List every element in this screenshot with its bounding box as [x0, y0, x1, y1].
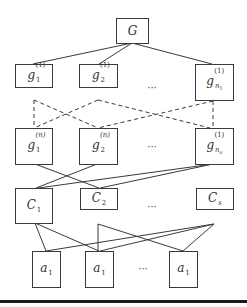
node-g1-n: g1(n) [15, 128, 53, 165]
ellipsis-level3: ··· [147, 201, 157, 212]
hierarchy-diagram: G g1(1) g2(1) ··· gn1(1) g1(n) g2(n) ···… [0, 0, 247, 307]
node-gna-1: gna(1) [195, 128, 234, 165]
node-root-G: G [116, 18, 149, 44]
node-a1-last: a1 [169, 251, 198, 288]
solid-edges [33, 43, 214, 251]
node-C1: C1 [15, 188, 53, 224]
ellipsis-level2: ··· [147, 141, 157, 152]
edge-level2-level3 [38, 164, 213, 188]
dashed-edges [34, 100, 213, 128]
node-label: G [128, 25, 138, 37]
edge-level3-level4 [100, 224, 214, 251]
node-gn1-1: gn1(1) [195, 64, 234, 101]
edge-level3-level4 [46, 224, 214, 251]
ellipsis-level1: ··· [147, 82, 157, 93]
node-Cs: Cs [196, 188, 234, 210]
edge-level3-level4 [98, 224, 183, 251]
ellipsis-level4: ··· [138, 263, 148, 274]
node-g1-1: g1(1) [15, 64, 53, 88]
edge-root-level1 [132, 43, 212, 64]
edge-level2-level3 [100, 164, 213, 188]
node-a1-second: a1 [85, 251, 114, 288]
node-g2-1: g2(1) [79, 64, 118, 88]
bottom-rule [0, 300, 247, 303]
node-C2: C2 [80, 188, 118, 210]
edge-root-level1 [33, 43, 132, 64]
node-g2-n: g2(n) [79, 128, 118, 165]
node-a1-first: a1 [32, 251, 61, 288]
